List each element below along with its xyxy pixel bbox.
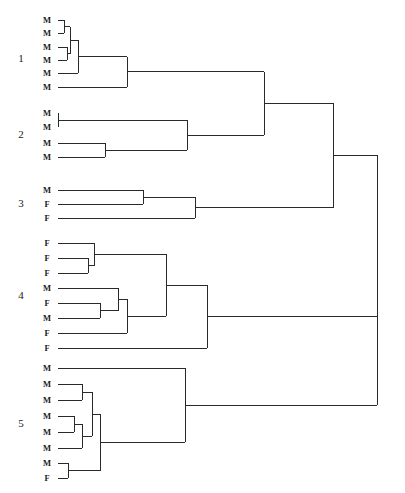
- dendrogram-plot: [0, 0, 405, 493]
- leaf-label-c5-3: M: [40, 396, 54, 405]
- leaf-label-c5-5: M: [40, 428, 54, 437]
- leaf-label-c3-1: M: [40, 186, 54, 195]
- cluster-label-1: 1: [14, 53, 28, 64]
- leaf-label-c5-1: M: [40, 364, 54, 373]
- cluster-label-3: 3: [14, 198, 28, 209]
- leaf-label-c5-4: M: [40, 412, 54, 421]
- leaf-label-c1-4: M: [40, 56, 54, 65]
- cluster-label-5: 5: [14, 418, 28, 429]
- cluster-label-2: 2: [14, 129, 28, 140]
- leaf-label-c1-6: M: [40, 83, 54, 92]
- leaf-label-c2-4: M: [40, 153, 54, 162]
- leaf-label-c4-8: F: [40, 344, 54, 353]
- leaf-label-c4-2: F: [40, 254, 54, 263]
- leaf-label-c4-5: F: [40, 299, 54, 308]
- leaf-label-c4-1: F: [40, 239, 54, 248]
- leaf-label-c4-7: F: [40, 329, 54, 338]
- leaf-label-c5-2: M: [40, 380, 54, 389]
- dendrogram-figure: 1MMMMMM2MMMM3MFF4FFFMFMFF5MMMMMMMF: [0, 0, 405, 493]
- leaf-label-c2-3: M: [40, 139, 54, 148]
- leaf-label-c5-7: M: [40, 459, 54, 468]
- leaf-label-c2-2: M: [40, 123, 54, 132]
- leaf-label-c4-6: M: [40, 314, 54, 323]
- leaf-label-c4-3: F: [40, 269, 54, 278]
- leaf-label-c4-4: M: [40, 284, 54, 293]
- leaf-label-c1-1: M: [40, 16, 54, 25]
- leaf-label-c1-3: M: [40, 43, 54, 52]
- leaf-label-c3-2: F: [40, 200, 54, 209]
- leaf-label-c5-8: F: [40, 474, 54, 483]
- leaf-label-c1-5: M: [40, 69, 54, 78]
- leaf-label-c5-6: M: [40, 444, 54, 453]
- leaf-label-c2-1: M: [40, 109, 54, 118]
- cluster-label-4: 4: [14, 290, 28, 301]
- leaf-label-c1-2: M: [40, 29, 54, 38]
- leaf-label-c3-3: F: [40, 214, 54, 223]
